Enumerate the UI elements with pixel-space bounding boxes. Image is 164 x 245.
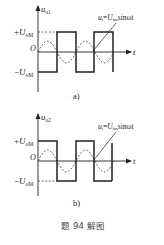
input-annotation: ui=Uimsinωt — [98, 13, 135, 22]
origin-label: O — [30, 153, 36, 162]
neg-level-label: −UoM — [14, 176, 33, 187]
panel-b: uo2 t O +UoM −UoM ui=Uimsinωt b) — [14, 112, 136, 208]
figure-caption: 题 94 解图 — [61, 221, 104, 231]
x-axis-label: t — [133, 47, 136, 57]
pos-level-label: +UoM — [14, 136, 33, 147]
neg-level-label: −UoM — [14, 67, 33, 78]
origin-label: O — [30, 44, 36, 53]
input-annotation: ui=Uimsinωt — [98, 122, 135, 131]
x-axis-label: t — [133, 156, 136, 166]
y-axis-label: uo1 — [41, 4, 51, 15]
pos-level-label: +UoM — [14, 27, 33, 38]
panel-sublabel: a) — [73, 91, 80, 101]
y-axis-label: uo2 — [41, 112, 51, 123]
panel-sublabel: b) — [73, 198, 80, 208]
figure-canvas: uo1 t O +UoM −UoM ui=Uimsinωt a) uo2 t O… — [0, 0, 164, 245]
panel-a: uo1 t O +UoM −UoM ui=Uimsinωt a) — [14, 4, 136, 101]
